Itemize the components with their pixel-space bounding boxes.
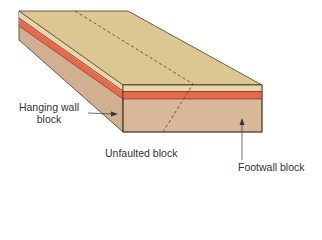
unfaulted-block-label: Unfaulted block bbox=[105, 147, 177, 159]
footwall-block-label: Footwall block bbox=[238, 161, 305, 173]
front-orange-layer bbox=[123, 92, 262, 99]
front-top-layer bbox=[123, 85, 262, 91]
hanging-wall-label: Hanging wall block bbox=[17, 101, 81, 125]
